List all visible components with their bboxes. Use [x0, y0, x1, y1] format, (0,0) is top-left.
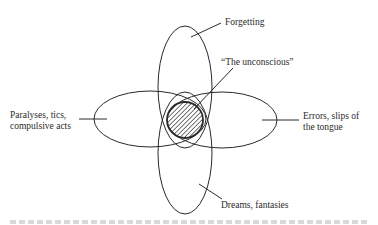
label-dreams: Dreams, fantasies [221, 200, 289, 211]
unconscious-circle [167, 102, 203, 138]
label-paralyses-line2: compulsive acts [10, 121, 71, 132]
leader-dreams [199, 184, 222, 199]
label-paralyses: Paralyses, tics, compulsive acts [10, 110, 71, 132]
label-paralyses-line1: Paralyses, tics, [10, 110, 71, 121]
label-errors: Errors, slips of the tongue [303, 111, 359, 133]
label-errors-line1: Errors, slips of [303, 111, 359, 122]
label-unconscious: “The unconscious” [221, 57, 294, 68]
label-errors-line2: the tongue [303, 122, 359, 133]
truncated-caption [10, 220, 370, 224]
diagram-canvas: Forgetting “The unconscious” Paralyses, … [0, 0, 378, 225]
label-forgetting: Forgetting [225, 17, 264, 28]
leader-unconscious [194, 68, 233, 109]
